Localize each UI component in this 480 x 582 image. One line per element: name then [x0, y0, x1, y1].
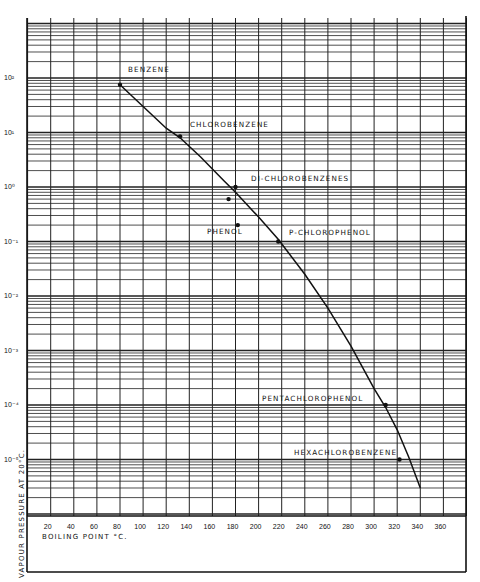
x-tick-label: 220: [273, 523, 285, 530]
label-pentachlorophenol: PENTACHLOROPHENOL: [262, 394, 363, 403]
data-point: [118, 83, 122, 87]
x-tick-label: 200: [250, 523, 262, 530]
x-tick-label: 340: [411, 523, 423, 530]
x-tick-label: 100: [134, 523, 146, 530]
vapour-pressure-curve: [120, 85, 420, 488]
x-tick-label: 300: [365, 523, 377, 530]
data-point: [276, 239, 280, 243]
y-tick-label: 10¹: [4, 129, 15, 136]
x-tick-label: 360: [435, 523, 447, 530]
x-tick-label: 40: [67, 523, 75, 530]
label-chlorobenzene: CHLOROBENZENE: [190, 120, 269, 129]
x-tick-label: 60: [90, 523, 98, 530]
label-hexachlorobenzene: HEXACHLOROBENZENE: [294, 448, 397, 457]
x-tick-label: 320: [388, 523, 400, 530]
x-tick-label: 80: [113, 523, 121, 530]
y-axis-label: VAPOUR PRESSURE AT 20°C.: [18, 449, 26, 578]
x-axis-label: BOILING POINT °C.: [42, 533, 128, 541]
y-tick-label: 10⁻⁵: [4, 456, 19, 463]
x-tick-label: 160: [204, 523, 216, 530]
y-tick-label: 10⁰: [4, 183, 15, 190]
x-tick-label: 20: [44, 523, 52, 530]
data-point: [233, 185, 237, 189]
grid: [27, 18, 467, 516]
x-tick-label: 180: [227, 523, 239, 530]
x-tick-label: 120: [157, 523, 169, 530]
y-tick-label: 10⁻¹: [4, 238, 19, 245]
x-tick-label: 280: [342, 523, 354, 530]
label-dichlorobenzenes: DI-CHLOROBENZENES: [251, 174, 349, 183]
vapour-pressure-chart: 10²10¹10⁰10⁻¹10⁻²10⁻³10⁻⁴10⁻⁵ 2040608010…: [0, 0, 480, 582]
data-point: [226, 197, 230, 201]
data-point: [397, 457, 401, 461]
y-axis-ticks: 10²10¹10⁰10⁻¹10⁻²10⁻³10⁻⁴10⁻⁵: [4, 74, 19, 463]
y-tick-label: 10⁻⁴: [4, 401, 19, 408]
y-tick-label: 10²: [4, 74, 15, 81]
data-point: [178, 134, 182, 138]
x-tick-label: 260: [319, 523, 331, 530]
label-benzene: BENZENE: [128, 65, 170, 74]
data-point: [383, 403, 387, 407]
x-tick-label: 240: [296, 523, 308, 530]
x-axis-ticks: 2040608010012014016018020022024026028030…: [44, 523, 447, 530]
label-p-chlorophenol: P-CHLOROPHENOL: [289, 228, 371, 237]
y-tick-label: 10⁻³: [4, 347, 19, 354]
label-phenol: PHENOL: [207, 227, 243, 236]
x-tick-label: 140: [180, 523, 192, 530]
y-tick-label: 10⁻²: [4, 292, 19, 299]
